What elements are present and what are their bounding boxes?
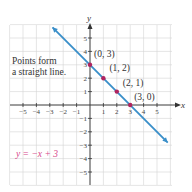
y-tick-label: −2 [80, 128, 88, 136]
data-point [101, 76, 105, 80]
x-tick-label: 4 [142, 108, 146, 116]
y-tick-label: −4 [80, 155, 88, 163]
annotation-line-2: a straight line. [12, 67, 66, 77]
series-line [52, 27, 167, 142]
x-tick-label: −5 [19, 108, 27, 116]
y-tick-label: −1 [80, 115, 88, 123]
y-axis-label: y [86, 13, 91, 23]
data-point-label: (0, 3) [94, 49, 115, 60]
data-point [128, 103, 132, 107]
equation-label: y = −x + 3 [15, 149, 58, 159]
y-tick-label: −5 [80, 169, 88, 177]
data-point [88, 63, 92, 67]
y-axis-arrow-icon [88, 23, 93, 29]
x-tick-label: 2 [115, 108, 119, 116]
labels: x y Points form a straight line. y = −x … [12, 13, 185, 159]
data-point-label: (3, 0) [134, 92, 155, 103]
y-tick-label: 5 [84, 35, 88, 43]
x-tick-label: −2 [59, 108, 67, 116]
series [52, 27, 167, 142]
y-tick-label: 2 [84, 75, 88, 83]
axes [10, 23, 181, 185]
coordinate-plane: −5−4−3−2−112345−5−4−3−2−112345 (0, 3)(1,… [0, 0, 192, 192]
data-point-label: (2, 1) [123, 78, 144, 89]
data-point-label: (1, 2) [109, 63, 130, 74]
x-tick-label: −3 [46, 108, 54, 116]
y-tick-label: −3 [80, 142, 88, 150]
y-tick-label: 4 [84, 48, 88, 56]
annotation-line-1: Points form [12, 56, 57, 66]
x-tick-label: −4 [33, 108, 41, 116]
x-tick-label: 5 [155, 108, 159, 116]
data-point [115, 89, 119, 93]
x-tick-label: 3 [128, 108, 132, 116]
x-axis-label: x [180, 100, 185, 110]
x-tick-label: 1 [102, 108, 106, 116]
y-tick-label: 1 [84, 88, 88, 96]
